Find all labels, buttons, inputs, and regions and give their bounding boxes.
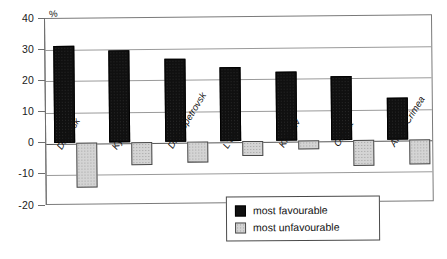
bar-unfavourable (353, 139, 374, 166)
y-axis-tick-label: 10 (0, 106, 34, 116)
bar-chart: % 403020100-10-20 DonetskKyivDnipropetro… (0, 0, 447, 259)
bar-unfavourable (132, 142, 153, 166)
bar-unfavourable (187, 141, 208, 163)
y-axis-tick-label: 40 (0, 13, 34, 23)
bar-unfavourable (76, 142, 97, 187)
y-axis-tick-label: -10 (0, 168, 34, 178)
y-axis-tick-label: 30 (0, 44, 34, 54)
bar-favourable (109, 50, 131, 142)
y-axis-tick-label: 0 (0, 137, 34, 147)
bar-unfavourable (242, 141, 263, 157)
chart-legend: most favourablemost unfavourable (226, 195, 380, 241)
legend-item: most favourable (235, 202, 371, 220)
legend-swatch-fav (235, 205, 246, 216)
y-axis-tick (38, 205, 45, 206)
legend-item: most unfavourable (235, 219, 371, 237)
legend-label: most favourable (253, 205, 328, 217)
y-axis-tick-label: 20 (0, 75, 34, 85)
bar-unfavourable (409, 139, 430, 164)
y-axis-tick (38, 173, 45, 174)
bar-unfavourable (298, 140, 319, 150)
legend-label: most unfavourable (253, 222, 339, 234)
y-axis-tick-label: -20 (0, 200, 34, 210)
y-axis-tick (38, 142, 45, 143)
bars-layer (44, 14, 434, 205)
legend-swatch-unfav (235, 222, 246, 233)
